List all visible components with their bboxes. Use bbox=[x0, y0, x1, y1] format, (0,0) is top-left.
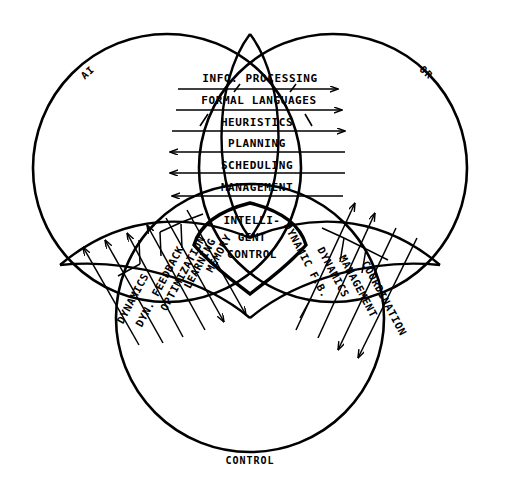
core-label-line-1: INTELLI- bbox=[224, 214, 281, 227]
ai-control-sep-4 bbox=[181, 224, 182, 248]
band-label-planning: PLANNING bbox=[228, 137, 286, 150]
set-label-control: CONTROL bbox=[225, 455, 274, 466]
band-label-scheduling: SCHEDULING bbox=[221, 159, 293, 172]
ai-control-sep-2 bbox=[139, 240, 140, 264]
venn-diagram: AI OR CONTROL INFO. PROCESSING FORMAL LA… bbox=[0, 0, 513, 502]
band-label-management: MANAGEMENT bbox=[221, 181, 293, 194]
ai-control-band-labels: DYNAMICS DYN. FEEDBACK OPTIMIZATION LEAR… bbox=[114, 232, 233, 329]
flow-arrow-dl-5 bbox=[300, 300, 310, 318]
band-label-info-processing: INFO. PROCESSING bbox=[202, 72, 318, 85]
core-label-line-2: GENT bbox=[238, 231, 267, 244]
band-tick-b bbox=[290, 84, 296, 92]
ai-control-sep-5 bbox=[160, 222, 182, 232]
ai-control-sep-3 bbox=[160, 232, 161, 256]
band-label-formal-languages: FORMAL LANGUAGES bbox=[201, 94, 317, 107]
venn-canvas: AI OR CONTROL INFO. PROCESSING FORMAL LA… bbox=[0, 0, 513, 502]
core-label-line-3: CONTROL bbox=[227, 248, 277, 261]
band-label-heuristics: HEURISTICS bbox=[221, 116, 293, 129]
band-tick-a bbox=[234, 84, 240, 92]
lens-ai-or bbox=[222, 34, 279, 238]
band-tick-d bbox=[305, 114, 312, 126]
